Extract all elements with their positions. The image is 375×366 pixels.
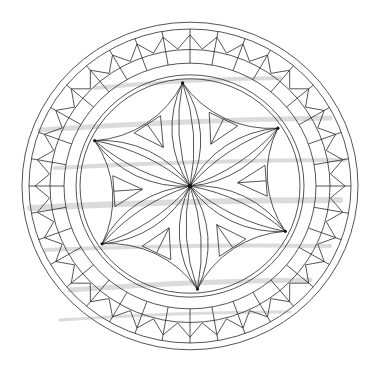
petal-tip-dot <box>93 139 96 142</box>
scallop-arc <box>267 128 285 231</box>
petal-inner-edge <box>179 83 190 186</box>
border-radial-line <box>308 132 341 144</box>
border-radial-line <box>233 38 245 70</box>
petal-edge <box>190 128 278 186</box>
petal-inner-edge <box>102 186 190 244</box>
petal-edge <box>190 186 285 232</box>
triangle-chip <box>134 116 163 148</box>
rosette-plate-drawing <box>0 0 375 366</box>
border-radial-line <box>253 50 271 80</box>
triangle-chip-bisector <box>147 124 163 147</box>
border-radial-line <box>287 265 314 287</box>
grain-streak <box>60 312 290 320</box>
border-radial-line <box>31 159 65 165</box>
border-radial-line <box>253 292 271 322</box>
border-radial-line <box>51 108 81 125</box>
petal-inner-edge <box>190 128 278 186</box>
petal-tip-dot <box>284 230 287 233</box>
scallop-arc <box>95 141 113 244</box>
grain-streak <box>30 200 340 208</box>
petal-inner-edge <box>102 186 190 244</box>
border-radial-line <box>271 280 293 306</box>
petal-inner-edge <box>190 128 278 186</box>
petal-tip-dot <box>196 287 199 290</box>
petal-edge <box>190 186 285 232</box>
border-radial-line <box>39 132 72 144</box>
triangle-chip-bisector <box>238 181 267 183</box>
border-radial-line <box>162 307 168 341</box>
petal-inner-edge <box>190 186 285 231</box>
petal-inner-edge <box>183 83 194 186</box>
triangle-chip-bisector <box>114 189 143 191</box>
six-petal-rosette <box>93 81 287 290</box>
border-radial-line <box>287 85 314 107</box>
petal-edge <box>190 128 278 186</box>
center-dot <box>188 184 192 188</box>
border-radial-line <box>135 38 147 70</box>
border-radial-line <box>233 301 245 333</box>
triangle-chip-bisector <box>157 228 170 253</box>
grain-streak <box>70 280 310 290</box>
petal-tip-dot <box>101 242 104 245</box>
petal-edge <box>102 186 190 244</box>
border-radial-line <box>67 265 94 287</box>
border-radial-line <box>162 31 168 65</box>
petal-inner-edge <box>190 186 285 231</box>
border-radial-line <box>299 247 329 264</box>
border-radial-line <box>110 50 128 80</box>
border-radial-line <box>87 280 109 306</box>
border-radial-line <box>314 207 348 213</box>
petal-edge <box>102 186 190 244</box>
border-radial-line <box>308 228 341 240</box>
border-radial-line <box>67 85 94 107</box>
petal-tip-dot <box>181 81 184 84</box>
border-radial-line <box>212 31 218 65</box>
petal-tip-dot <box>276 127 279 130</box>
border-radial-line <box>39 228 72 240</box>
border-radial-line <box>135 301 147 333</box>
triangle-chip <box>217 225 246 257</box>
